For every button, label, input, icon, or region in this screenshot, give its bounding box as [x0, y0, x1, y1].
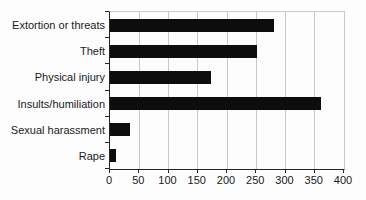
y-axis-tick [105, 11, 109, 12]
gridline [227, 12, 228, 169]
gridline [197, 12, 198, 169]
y-axis-tick [105, 116, 109, 117]
horizontal-bar-chart: Extortion or threatsTheftPhysical injury… [0, 0, 366, 200]
x-axis-tick [197, 169, 198, 173]
x-axis-tick-label: 350 [305, 174, 323, 186]
category-label: Extortion or threats [2, 19, 105, 31]
x-axis-tick [109, 169, 110, 173]
bar [110, 45, 257, 58]
gridline [139, 12, 140, 169]
plot-area [109, 11, 345, 170]
category-label: Rape [2, 150, 105, 162]
y-axis-tick [105, 142, 109, 143]
category-label: Insults/humiliation [2, 98, 105, 110]
bar [110, 123, 130, 136]
x-axis-tick [285, 169, 286, 173]
category-label: Sexual harassment [2, 124, 105, 136]
category-label: Theft [2, 45, 105, 57]
x-axis-tick [226, 169, 227, 173]
bar [110, 19, 274, 32]
x-axis-tick-label: 100 [158, 174, 176, 186]
x-axis-tick-label: 150 [188, 174, 206, 186]
y-axis-tick [105, 37, 109, 38]
category-label: Physical injury [2, 71, 105, 83]
gridline [256, 12, 257, 169]
x-axis-tick [343, 169, 344, 173]
y-axis-tick [105, 90, 109, 91]
gridline [168, 12, 169, 169]
x-axis-tick [138, 169, 139, 173]
x-axis-tick-label: 250 [246, 174, 264, 186]
x-axis-tick-label: 300 [275, 174, 293, 186]
x-axis-tick [255, 169, 256, 173]
x-axis-tick-label: 0 [106, 174, 112, 186]
bar [110, 71, 211, 84]
x-axis-tick-label: 200 [217, 174, 235, 186]
x-axis-tick-label: 50 [132, 174, 144, 186]
bar [110, 149, 116, 162]
gridline [314, 12, 315, 169]
x-axis-tick [314, 169, 315, 173]
y-axis-tick [105, 63, 109, 64]
bar [110, 97, 321, 110]
x-axis-tick [168, 169, 169, 173]
x-axis-tick-label: 400 [334, 174, 352, 186]
gridline [285, 12, 286, 169]
